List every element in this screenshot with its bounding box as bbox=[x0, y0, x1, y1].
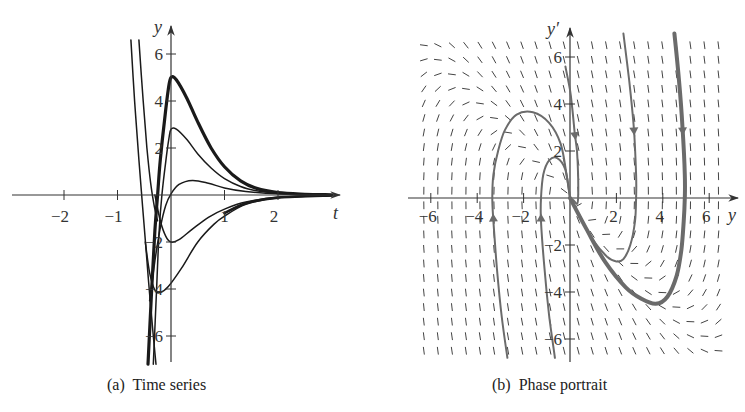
direction-arrow-icon bbox=[537, 214, 546, 222]
curve-trough-minus-4 bbox=[145, 196, 331, 293]
y-tick-label: −2 bbox=[145, 233, 163, 252]
curve-thick-peak-5 bbox=[148, 77, 332, 365]
x-tick-label: 2 bbox=[609, 207, 618, 226]
curve-steep-left-1 bbox=[131, 40, 156, 364]
y-tick-label: 2 bbox=[155, 139, 164, 158]
trajectory-traj-start-neg1.5 bbox=[541, 157, 570, 357]
y-tick-label: 4 bbox=[554, 95, 563, 114]
y-prime-axis-label: y′ bbox=[545, 19, 560, 39]
time-series-plot: −2−112−6−4−2246 y t bbox=[12, 17, 340, 364]
x-tick-label: −2 bbox=[512, 207, 530, 226]
y-tick-label: −2 bbox=[544, 236, 562, 255]
x-tick-label: −4 bbox=[465, 207, 484, 226]
x-tick-label: 1 bbox=[220, 207, 229, 226]
time-series-curves bbox=[131, 40, 332, 364]
y-tick-label: −4 bbox=[145, 280, 164, 299]
curve-trough-minus-2 bbox=[155, 195, 332, 242]
phase-trajectories bbox=[489, 34, 687, 358]
direction-arrow-icon bbox=[629, 127, 638, 135]
y-tick-label: 4 bbox=[155, 92, 164, 111]
caption-time-series: (a) Time series bbox=[107, 376, 206, 394]
x-tick-label: 6 bbox=[702, 207, 711, 226]
y-tick-label: −4 bbox=[544, 283, 563, 302]
curve-peak-3 bbox=[153, 128, 331, 364]
x-tick-label: −1 bbox=[104, 207, 122, 226]
y-tick-label: 6 bbox=[554, 48, 563, 67]
figure-canvas: −2−112−6−4−2246 y t −6−4−2246−6−4−2246 y… bbox=[0, 0, 745, 412]
y-tick-label: 6 bbox=[155, 45, 164, 64]
y-tick-label: 2 bbox=[554, 142, 563, 161]
y-axis-label-b: y bbox=[726, 205, 736, 225]
y-axis-label: y bbox=[152, 17, 162, 37]
y-tick-label: −6 bbox=[544, 330, 562, 349]
phase-portrait-plot: −6−4−2246−6−4−2246 y′ y bbox=[408, 19, 738, 362]
direction-arrow-icon bbox=[678, 127, 687, 135]
caption-phase-portrait: (b) Phase portrait bbox=[492, 376, 607, 394]
x-tick-label: −2 bbox=[51, 207, 69, 226]
t-axis-label: t bbox=[333, 203, 339, 223]
y-tick-label: −6 bbox=[145, 327, 163, 346]
direction-arrow-icon bbox=[489, 214, 498, 222]
trajectory-traj-from-top-2.8 bbox=[570, 34, 636, 262]
x-tick-label: 4 bbox=[656, 207, 665, 226]
x-tick-label: 2 bbox=[270, 207, 279, 226]
x-tick-label: −6 bbox=[419, 207, 437, 226]
